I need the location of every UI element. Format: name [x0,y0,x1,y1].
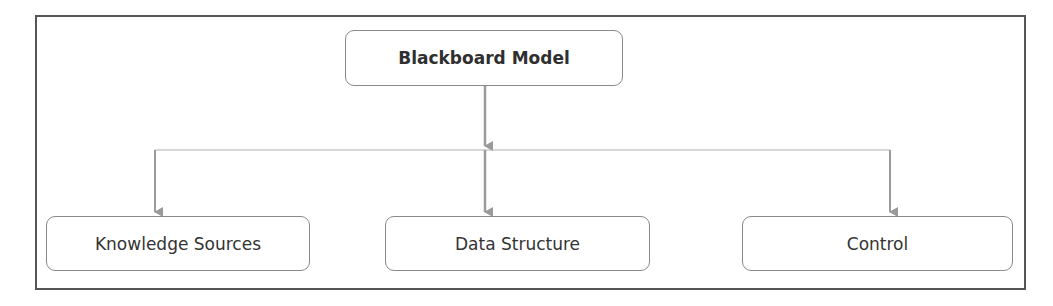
node-knowledge-sources: Knowledge Sources [46,216,310,271]
node-blackboard-model: Blackboard Model [345,30,623,86]
node-label: Data Structure [455,234,580,254]
node-data-structure: Data Structure [385,216,650,271]
node-label: Blackboard Model [398,48,570,68]
node-label: Control [847,234,908,254]
node-label: Knowledge Sources [95,234,261,254]
node-control: Control [742,216,1013,271]
